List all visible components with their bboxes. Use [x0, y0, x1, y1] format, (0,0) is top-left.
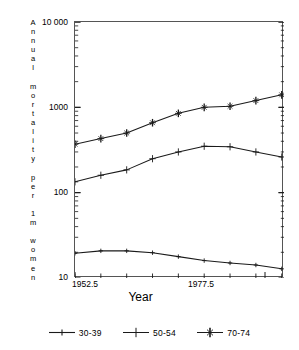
legend-label-30-39: 30-39: [79, 328, 102, 338]
chart-legend: 30-39 50-54 70-74: [0, 327, 299, 338]
y-axis-title-char: m: [26, 218, 40, 227]
y-axis-title-gap: [26, 227, 40, 236]
y-tick-label-100: 100: [20, 187, 68, 197]
y-axis-title-char: w: [26, 236, 40, 245]
legend-label-50-54: 50-54: [153, 328, 176, 338]
y-tick-label-10000: 10 000: [20, 17, 68, 27]
y-axis-title-char: t: [26, 145, 40, 154]
legend-marker-icon-70-74: [197, 327, 223, 338]
series-50-54: [75, 143, 284, 186]
plot-area: [74, 21, 283, 277]
y-axis-title-char: n: [26, 36, 40, 45]
x-axis-title-text: Year: [128, 290, 152, 304]
y-axis-title-gap: [26, 73, 40, 82]
legend-marker-icon-50-54: [123, 327, 149, 338]
y-axis-title-char: o: [26, 245, 40, 254]
x-tick-label-1952: 1952.5: [72, 279, 98, 289]
series-30-39: [75, 249, 284, 271]
series-line-30-39: [75, 251, 282, 269]
y-axis-title-char: m: [26, 82, 40, 91]
y-axis-title-char: l: [26, 63, 40, 72]
legend-label-70-74: 70-74: [227, 328, 250, 338]
y-tick-label-10: 10: [20, 272, 68, 282]
y-axis-title-char: y: [26, 154, 40, 163]
x-axis-title: Year: [0, 290, 299, 304]
legend-item-70-74[interactable]: 70-74: [197, 327, 250, 338]
series-line-70-74: [75, 95, 282, 144]
legend-marker-icon-30-39: [49, 327, 75, 338]
y-axis-title: Annualmortalityper1mwomen: [26, 18, 40, 280]
series-70-74: [75, 91, 284, 148]
y-axis-title-char: m: [26, 254, 40, 263]
y-axis-title-gap: [26, 164, 40, 173]
y-tick-label-1000: 1000: [20, 102, 68, 112]
y-axis-title-char: o: [26, 91, 40, 100]
y-axis-title-char: p: [26, 173, 40, 182]
legend-item-30-39[interactable]: 30-39: [49, 327, 102, 338]
y-axis-title-char: l: [26, 127, 40, 136]
chart-svg: [75, 22, 284, 278]
y-axis-title-char: a: [26, 118, 40, 127]
x-tick-label-1977: 1977.5: [188, 279, 214, 289]
y-axis-title-char: i: [26, 136, 40, 145]
legend-item-50-54[interactable]: 50-54: [123, 327, 176, 338]
y-axis-title-gap: [26, 200, 40, 209]
y-axis-title-char: 1: [26, 209, 40, 218]
y-axis-title-char: u: [26, 45, 40, 54]
y-axis-title-char: n: [26, 27, 40, 36]
y-axis-title-char: a: [26, 54, 40, 63]
